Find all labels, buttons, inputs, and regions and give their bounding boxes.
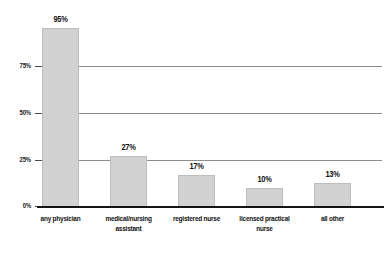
y-axis-label-50: 50% <box>0 109 31 116</box>
y-axis-label-75: 75% <box>0 62 31 69</box>
gridline-50 <box>42 113 382 114</box>
y-axis-label-25: 25% <box>0 156 31 163</box>
x-axis-label-line: all other <box>301 214 365 224</box>
bar-value-any-physician: 95% <box>44 14 77 24</box>
tick-mark-75 <box>35 66 42 67</box>
x-axis-label-all-other: all other <box>301 214 365 224</box>
x-axis-label-any-physician: any physician <box>29 214 93 224</box>
bar-medical-nursing-assistant <box>110 156 147 207</box>
x-axis-label-licensed-practical-nurse: licensed practical nurse <box>233 214 297 234</box>
bar-any-physician <box>42 28 79 207</box>
bar-registered-nurse <box>178 175 215 207</box>
tick-mark-50 <box>35 113 42 114</box>
gridline-75 <box>42 66 382 67</box>
x-axis-line <box>37 206 384 208</box>
x-axis-label-line: nurse <box>233 224 297 234</box>
bar-value-all-other: 13% <box>316 169 349 179</box>
bar-licensed-practical-nurse <box>246 188 283 207</box>
bar-value-licensed-practical-nurse: 10% <box>248 174 281 184</box>
bar-all-other <box>314 183 351 207</box>
bar-chart: 75% 50% 25% 0% 95% 27% 17% 10% 13% any p… <box>0 0 387 258</box>
x-axis-label-line: licensed practical <box>233 214 297 224</box>
x-axis-label-line: any physician <box>29 214 93 224</box>
x-axis-label-line: medical/nursing <box>97 214 161 224</box>
bar-value-medical-nursing-assistant: 27% <box>112 142 145 152</box>
x-axis-label-registered-nurse: registered nurse <box>165 214 229 224</box>
tick-mark-25 <box>35 160 42 161</box>
x-axis-label-line: assistant <box>97 224 161 234</box>
plot-area: 75% 50% 25% 0% 95% 27% 17% 10% 13% any p… <box>0 0 387 258</box>
x-axis-label-medical-nursing-assistant: medical/nursing assistant <box>97 214 161 234</box>
x-axis-label-line: registered nurse <box>165 214 229 224</box>
y-axis-label-0: 0% <box>0 202 31 209</box>
bar-value-registered-nurse: 17% <box>180 161 213 171</box>
